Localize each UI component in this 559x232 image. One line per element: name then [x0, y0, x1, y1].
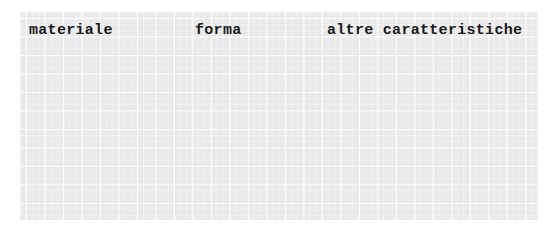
- column-header-altre-caratteristiche: altre caratteristiche: [327, 22, 522, 39]
- grid-worksheet: materiale forma altre caratteristiche: [20, 12, 538, 220]
- column-header-materiale: materiale: [29, 22, 113, 39]
- column-header-forma: forma: [195, 22, 242, 39]
